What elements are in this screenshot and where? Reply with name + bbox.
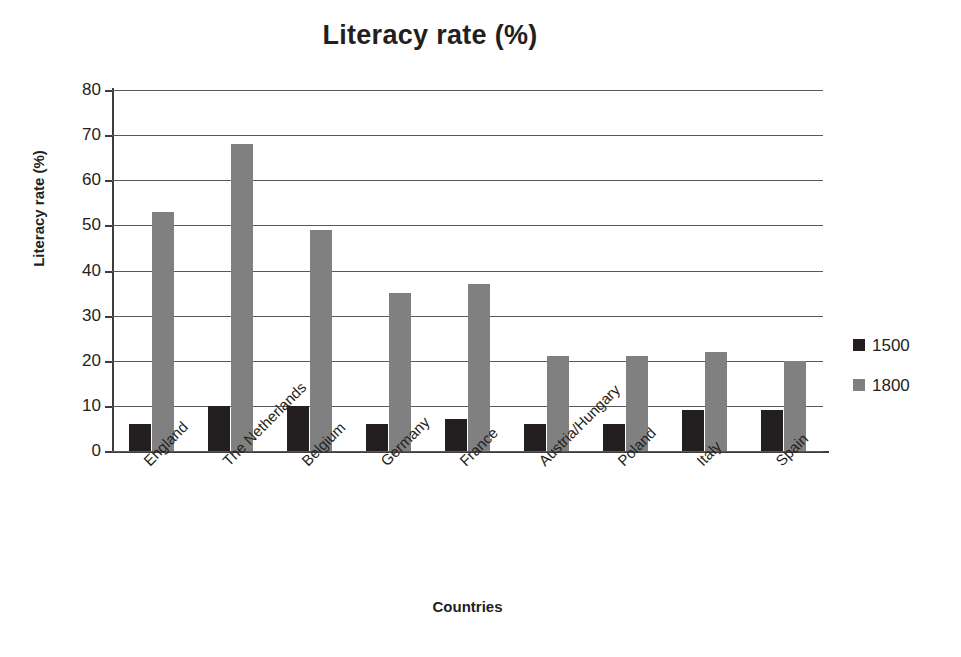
y-axis-tick (105, 451, 112, 453)
y-axis-tick-label: 60 (82, 170, 101, 190)
y-axis-tick-label: 20 (82, 351, 101, 371)
chart-title: Literacy rate (%) (0, 20, 860, 51)
y-axis-tick (105, 135, 112, 137)
x-axis-tick-labels: EnglandThe NetherlandsBelgiumGermanyFran… (112, 451, 823, 601)
y-axis-tick (105, 406, 112, 408)
legend-label: 1800 (872, 377, 910, 394)
bar-group (428, 90, 507, 451)
bar (682, 410, 704, 451)
bar (761, 410, 783, 451)
y-axis-tick (105, 90, 112, 92)
y-axis-tick (105, 180, 112, 182)
bar (603, 424, 625, 451)
bar (445, 419, 467, 451)
legend-item: 1800 (853, 365, 953, 405)
y-axis-tick-label: 70 (82, 125, 101, 145)
y-axis-tick-label: 80 (82, 80, 101, 100)
y-axis-tick-label: 50 (82, 215, 101, 235)
plot-area: 01020304050607080 (112, 90, 823, 451)
bar-group (349, 90, 428, 451)
chart-canvas: Literacy rate (%) Literacy rate (%) 0102… (0, 0, 961, 657)
bar-groups (112, 90, 823, 451)
bar (129, 424, 151, 451)
bar-group (191, 90, 270, 451)
y-axis-tick (105, 271, 112, 273)
y-axis-tick (105, 361, 112, 363)
bar-group (744, 90, 823, 451)
y-axis-tick (105, 316, 112, 318)
chart-legend: 15001800 (853, 325, 953, 405)
y-axis-title: Literacy rate (%) (30, 109, 47, 309)
bar-group (507, 90, 586, 451)
legend-item: 1500 (853, 325, 953, 365)
bar (310, 230, 332, 451)
bar-group (112, 90, 191, 451)
bar (705, 352, 727, 451)
bar (287, 406, 309, 451)
bar (152, 212, 174, 451)
y-axis-tick-label: 10 (82, 396, 101, 416)
legend-label: 1500 (872, 337, 910, 354)
y-axis-tick-label: 30 (82, 306, 101, 326)
x-axis-title: Countries (112, 598, 823, 615)
y-axis-tick-label: 40 (82, 261, 101, 281)
bar (366, 424, 388, 451)
bar (231, 144, 253, 451)
legend-swatch-icon (853, 339, 865, 351)
y-axis-tick-label: 0 (92, 441, 101, 461)
bar (524, 424, 546, 451)
legend-swatch-icon (853, 379, 865, 391)
bar (208, 406, 230, 451)
bar-group (665, 90, 744, 451)
y-axis-tick (105, 225, 112, 227)
